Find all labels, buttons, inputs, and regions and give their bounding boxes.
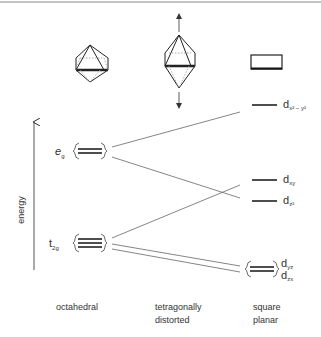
line-t2g-to-dzx (112, 249, 240, 272)
caption-tetragonal-line2: distorted (155, 315, 190, 325)
correlation-lines (112, 112, 240, 272)
line-eg-to-dz2 (112, 157, 240, 198)
dz2-label: dz² (283, 194, 294, 207)
dzx-label: dzx (281, 269, 293, 282)
dx2-y2-label: dx² − y² (283, 98, 306, 111)
t2g-label: t2g (49, 237, 59, 251)
line-t2g-to-dyz (112, 244, 240, 266)
tetragonal-octahedron-icon (165, 35, 195, 88)
dxy-label: dxy (283, 173, 295, 186)
dyz-dzx-levels (245, 261, 279, 277)
caption-tetragonal-line1: tetragonally (155, 302, 202, 312)
eg-label: eg (55, 145, 64, 159)
energy-axis-label: energy (16, 196, 26, 224)
caption-octahedral: octahedral (56, 302, 98, 312)
eg-levels (73, 143, 107, 159)
caption-square-line2: planar (253, 315, 278, 325)
caption-square-line1: square (253, 302, 281, 312)
line-eg-to-dx2y2 (112, 112, 240, 147)
square-planar-icon (251, 55, 282, 69)
octahedron-icon (76, 45, 108, 82)
t2g-levels (73, 234, 107, 252)
line-t2g-to-dxy (112, 185, 240, 238)
splitting-diagram: energy eg t2g dx² − y² dxy dz² dyz dzx (0, 0, 321, 337)
